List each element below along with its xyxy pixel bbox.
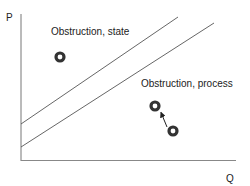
process-start-point-marker [169, 127, 177, 135]
process-end-point-marker [151, 102, 159, 110]
region-label-state: Obstruction, state [51, 26, 129, 37]
x-axis-label: Q [226, 173, 234, 184]
state-point-marker [56, 53, 64, 61]
y-axis-label: P [6, 12, 13, 23]
process-arrow-icon [161, 113, 167, 128]
region-label-process: Obstruction, process [141, 78, 233, 89]
